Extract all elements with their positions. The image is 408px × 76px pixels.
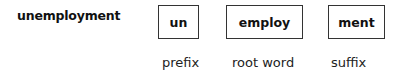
suffix-label: suffix: [331, 55, 366, 70]
prefix-box: un: [158, 5, 199, 39]
suffix-box: ment: [328, 5, 385, 39]
root-word-box: employ: [226, 5, 303, 39]
prefix-text: un: [170, 15, 188, 30]
root-word-label: root word: [232, 55, 294, 70]
whole-word: unemployment: [17, 8, 120, 23]
root-word-text: employ: [239, 15, 290, 30]
prefix-label: prefix: [162, 55, 199, 70]
suffix-text: ment: [338, 15, 374, 30]
